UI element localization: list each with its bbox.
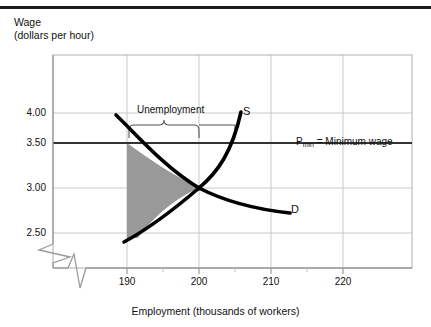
supply-curve-label: S: [243, 105, 250, 117]
pmin-subscript: min: [303, 141, 314, 148]
pmin-symbol: P: [296, 136, 303, 147]
x-tick-label-220: 220: [323, 276, 363, 287]
minimum-wage-chart-figure: Wage (dollars per hour): [0, 0, 431, 327]
y-tick-label-350: 3.50: [12, 137, 46, 148]
x-tick-label-200: 200: [179, 276, 219, 287]
y-tick-label-400: 4.00: [12, 107, 46, 118]
pmin-text: = Minimum wage: [317, 136, 393, 147]
x-axis-title: Employment (thousands of workers): [0, 305, 431, 318]
y-tick-label-300: 3.00: [12, 182, 46, 193]
minimum-wage-annotation: Pmin = Minimum wage: [296, 136, 393, 147]
demand-curve-label: D: [291, 203, 299, 215]
y-tick-label-250: 2.50: [12, 227, 46, 238]
x-tick-label-190: 190: [107, 276, 147, 287]
equilibrium-point: [196, 185, 201, 190]
unemployment-annotation-label: Unemployment: [137, 104, 204, 115]
x-tick-label-210: 210: [251, 276, 291, 287]
x-axis-ticks: [127, 268, 343, 274]
plot-background: [53, 55, 412, 268]
